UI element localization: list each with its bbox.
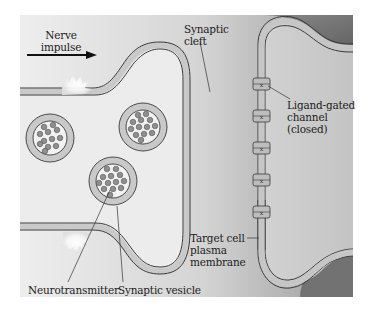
target-cell (262, 21, 353, 283)
label-nerve-impulse: Nerve impulse (36, 29, 86, 53)
label-synaptic-vesicle: Synaptic vesicle (118, 284, 201, 296)
label-ligand-gated-channel: Ligand-gated channel (closed) (287, 99, 355, 135)
label-neurotransmitter: Neurotransmitter (28, 284, 119, 296)
label-synaptic-cleft: Synaptic cleft (184, 23, 229, 47)
synaptic-vesicle-1 (26, 114, 74, 162)
label-target-cell-membrane: Target cell plasma membrane (190, 232, 246, 268)
synaptic-vesicle-3 (89, 157, 137, 205)
synaptic-vesicle-2 (119, 103, 167, 151)
synapse-diagram: x x x x x (0, 0, 370, 315)
